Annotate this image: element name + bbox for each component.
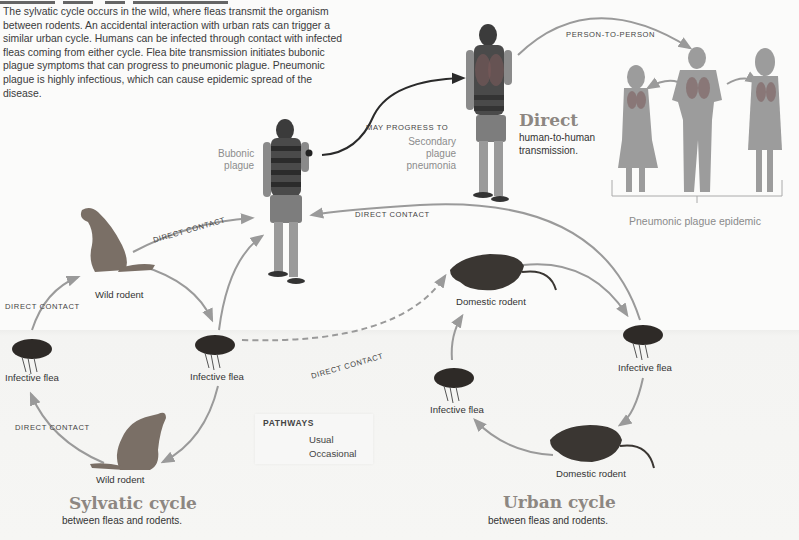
flea-sylvatic-left [12, 339, 52, 374]
legend-item-usual: Usual [309, 434, 334, 445]
edge-label-flea-to-rodent: DIRECT CONTACT [5, 302, 80, 311]
domestic-rodent-top-label: Domestic rodent [456, 296, 526, 307]
arrow-urbanflea-left-to-rodent [452, 316, 462, 360]
sylvatic-sub: between fleas and rodents. [62, 515, 182, 526]
person-to-person-label: PERSON-TO-PERSON [566, 30, 655, 39]
domestic-rodent-top [450, 254, 556, 290]
edge-label-flea-to-human: DIRECT CONTACT [355, 210, 430, 219]
human-pneumonic-figure [466, 24, 512, 202]
sylvatic-flea-left-label: Infective flea [5, 372, 59, 383]
urban-flea-right-label: Infective flea [618, 362, 672, 373]
domestic-rodent-bottom-label: Domestic rodent [556, 468, 626, 479]
wild-rodent-top [81, 208, 155, 272]
arrow-epidemic-left [648, 81, 678, 88]
legend-item-occasional: Occasional [309, 448, 356, 459]
flea-sylvatic-right [195, 335, 235, 370]
direct-heading: Direct [519, 110, 578, 130]
secondary-pneumonia-label: Secondary plague pneumonia [394, 136, 456, 172]
arrow-sylvatic-to-urban-occasional [242, 276, 445, 340]
direct-sub-line1: human-to-human [519, 132, 595, 143]
arrow-wildrodent-to-flea [142, 266, 212, 320]
arrow-sylvatic-flea-to-human [219, 236, 262, 330]
arrow-urbanflea-to-rodent [620, 378, 643, 425]
arrow-wildrodent-to-human [133, 218, 252, 252]
wild-rodent-top-label: Wild rodent [95, 289, 144, 300]
pathways-legend: PATHWAYS Usual Occasional [255, 414, 373, 464]
urban-flea-left-label: Infective flea [430, 404, 484, 415]
human-bubonic-figure [263, 119, 313, 284]
arrow-flea-to-wildrodent-bottom [163, 386, 218, 462]
flea-urban-right [623, 325, 663, 360]
wild-rodent-bottom-label: Wild rodent [96, 474, 145, 485]
may-progress-label: MAY PROGRESS TO [366, 123, 448, 132]
sylvatic-heading: Sylvatic cycle [69, 493, 197, 513]
edge-label-rodent-to-flea: DIRECT CONTACT [15, 423, 90, 432]
bubonic-plague-label: Bubonic plague [218, 148, 254, 172]
epidemic-label: Pneumonic plague epidemic [629, 215, 761, 227]
domestic-rodent-bottom [550, 425, 654, 468]
urban-heading: Urban cycle [503, 492, 616, 512]
arrow-rodent-to-urbanflea-left [475, 420, 553, 455]
sylvatic-flea-right-label: Infective flea [190, 371, 244, 382]
flea-urban-left [434, 368, 474, 403]
direct-sub-line2: transmission. [519, 145, 578, 156]
epidemic-silhouettes [618, 47, 782, 192]
urban-sub: between fleas and rodents. [488, 515, 608, 526]
legend-title: PATHWAYS [263, 418, 314, 428]
